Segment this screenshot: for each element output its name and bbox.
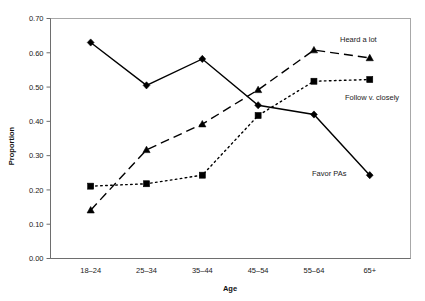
y-tick-label: 0.70: [29, 14, 44, 23]
series-annotation-follow-v-closely: Follow v. closely: [345, 93, 399, 102]
data-point-marker-triangle: [310, 46, 317, 52]
x-tick-label: 18–24: [80, 266, 101, 275]
y-tick-label: 0.20: [29, 186, 44, 195]
series-annotations: Heard a lotFollow v. closelyFavor PAs: [312, 35, 399, 178]
y-tick-label: 0.50: [29, 83, 44, 92]
x-tick-label: 35–44: [192, 266, 213, 275]
data-point-marker-triangle: [366, 54, 373, 60]
series-annotation-heard-a-lot: Heard a lot: [340, 35, 378, 44]
x-axis-ticks: 18–2425–3435–4445–5455–6465+: [80, 266, 376, 275]
data-point-marker-square: [367, 77, 373, 83]
plot-frame: [51, 19, 411, 259]
y-tick-label: 0.00: [29, 254, 44, 263]
x-axis-title: Age: [223, 284, 237, 293]
y-tick-label: 0.40: [29, 117, 44, 126]
y-axis-title: Proportion: [7, 126, 16, 165]
x-tick-label: 45–54: [248, 266, 269, 275]
x-tick-label: 55–64: [304, 266, 325, 275]
series-heard-a-lot: [87, 46, 373, 213]
x-tick-label: 25–34: [136, 266, 157, 275]
series-group: [87, 39, 373, 213]
chart-page: 0.000.100.200.300.400.500.600.70 18–2425…: [0, 0, 425, 301]
x-tick-label: 65+: [363, 266, 376, 275]
series-favor-pas: [87, 39, 373, 179]
y-tick-label: 0.60: [29, 49, 44, 58]
data-point-marker-square: [144, 181, 150, 187]
series-annotation-favor-pas: Favor PAs: [312, 169, 347, 178]
data-point-marker-square: [88, 183, 94, 189]
line-chart: 0.000.100.200.300.400.500.600.70 18–2425…: [0, 0, 425, 301]
y-axis-ticks: 0.000.100.200.300.400.500.600.70: [29, 14, 51, 263]
series-line: [91, 43, 370, 176]
data-point-marker-square: [199, 172, 205, 178]
data-point-marker-triangle: [199, 121, 206, 127]
data-point-marker-square: [311, 78, 317, 84]
y-tick-label: 0.10: [29, 220, 44, 229]
y-tick-label: 0.30: [29, 151, 44, 160]
data-point-marker-square: [255, 113, 261, 119]
